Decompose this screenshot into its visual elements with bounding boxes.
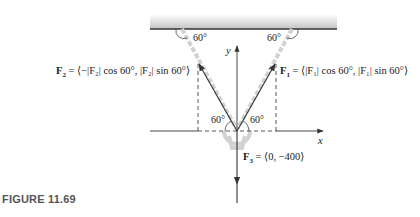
angle-label-bottom-left: 60° [211, 114, 225, 125]
left-chain [182, 29, 236, 128]
angle-arc-bottom-right [243, 121, 249, 131]
f1-label: F1 = ⟨|F₁| cos 60°, |F₁| sin 60°⟩ [280, 64, 408, 79]
angle-label-bottom-right: 60° [250, 114, 264, 125]
ceiling [150, 14, 337, 29]
f2-label: F2 = ⟨−|F₂| cos 60°, |F₂| sin 60°⟩ [56, 64, 190, 79]
f1-expression: = ⟨|F₁| cos 60°, |F₁| sin 60°⟩ [290, 65, 408, 76]
figure-caption: FIGURE 11.69 [2, 193, 76, 205]
angle-arc-bottom-left [225, 121, 231, 131]
angle-label-top-right: 60° [267, 32, 281, 43]
f3-expression: = ⟨0, −400⟩ [253, 151, 305, 162]
f3-label: F3 = ⟨0, −400⟩ [243, 150, 304, 165]
angle-label-top-left: 60° [193, 32, 207, 43]
y-axis-label: y [226, 45, 231, 56]
x-axis-label: x [318, 135, 323, 146]
f2-expression: = ⟨−|F₂| cos 60°, |F₂| sin 60°⟩ [66, 65, 190, 76]
force-diagram [0, 0, 420, 217]
